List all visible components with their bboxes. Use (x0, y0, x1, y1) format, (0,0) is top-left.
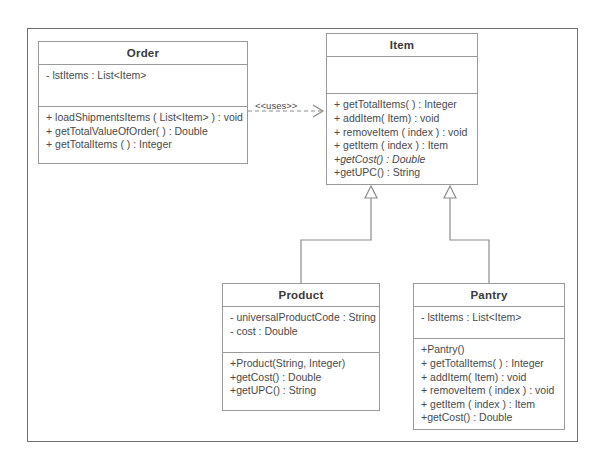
method: +getUPC() : String (334, 166, 471, 180)
class-title-item: Item (327, 34, 477, 57)
method: +getCost() : Double (230, 371, 373, 385)
method: + getTotalItems( ) : Integer (334, 98, 471, 112)
uml-class-pantry[interactable]: Pantry - lstItems : List<Item> +Pantry()… (413, 283, 565, 430)
attribute: - lstItems : List<Item> (46, 69, 241, 83)
method: + loadShipmentsItems ( List<Item> ) : vo… (46, 111, 241, 125)
method-abstract: +getCost() : Double (334, 153, 471, 167)
uml-class-item[interactable]: Item + getTotalItems( ) : Integer + addI… (326, 33, 478, 185)
method: + getTotalValueOfOrder( ) : Double (46, 125, 241, 139)
class-attributes-item (327, 57, 477, 94)
attribute: - lstItems : List<Item> (421, 311, 558, 325)
class-attributes-order: - lstItems : List<Item> (39, 65, 247, 107)
class-title-order: Order (39, 42, 247, 65)
method: +Pantry() (421, 343, 558, 357)
method: +getCost() : Double (421, 411, 558, 425)
method: + removeItem ( index ) : void (421, 384, 558, 398)
attribute: - cost : Double (230, 325, 373, 339)
class-methods-order: + loadShipmentsItems ( List<Item> ) : vo… (39, 107, 247, 156)
method: + getItem ( index ) : Item (421, 398, 558, 412)
method: +Product(String, Integer) (230, 357, 373, 371)
method: + addItem( Item) : void (421, 371, 558, 385)
uml-class-product[interactable]: Product - universalProductCode : String … (222, 283, 380, 411)
uml-class-diagram-canvas: Order - lstItems : List<Item> + loadShip… (0, 0, 605, 468)
method: + removeItem ( index ) : void (334, 126, 471, 140)
class-attributes-pantry: - lstItems : List<Item> (414, 307, 564, 339)
class-attributes-product: - universalProductCode : String - cost :… (223, 307, 379, 353)
class-title-pantry: Pantry (414, 284, 564, 307)
method: + addItem( Item) : void (334, 112, 471, 126)
method: + getTotalItems( ) : Integer (421, 357, 558, 371)
class-methods-item: + getTotalItems( ) : Integer + addItem( … (327, 94, 477, 184)
method: + getTotalItems ( ) : Integer (46, 138, 241, 152)
class-title-product: Product (223, 284, 379, 307)
relationship-label-uses: <<uses>> (255, 100, 297, 111)
method: +getUPC() : String (230, 384, 373, 398)
method: + getItem ( index ) : Item (334, 139, 471, 153)
uml-class-order[interactable]: Order - lstItems : List<Item> + loadShip… (38, 41, 248, 164)
class-methods-product: +Product(String, Integer) +getCost() : D… (223, 353, 379, 402)
class-methods-pantry: +Pantry() + getTotalItems( ) : Integer +… (414, 339, 564, 429)
attribute: - universalProductCode : String (230, 311, 373, 325)
